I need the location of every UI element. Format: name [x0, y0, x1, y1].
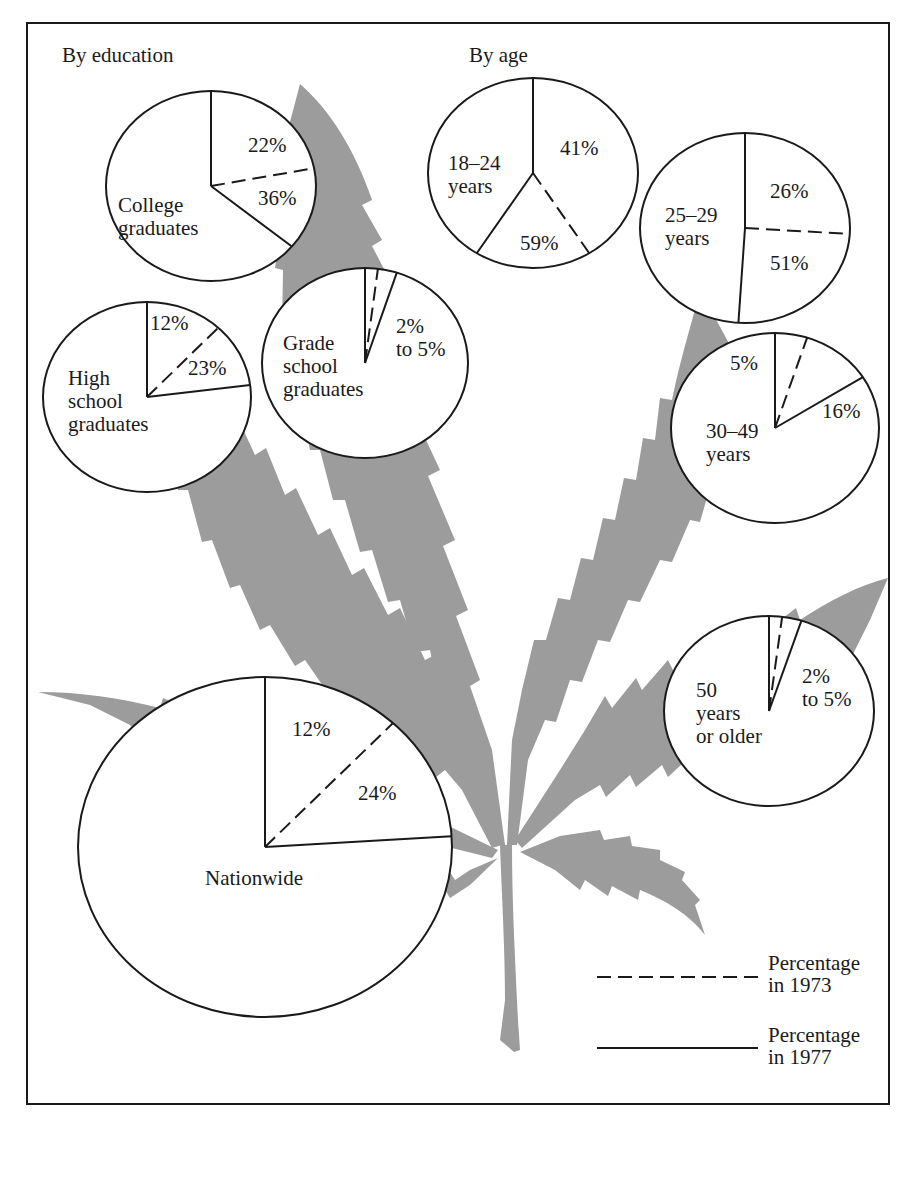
pie-value-label-1973: 5%	[730, 351, 758, 375]
pie-category-label: years	[448, 174, 492, 198]
leaf-stem	[500, 845, 520, 1052]
pie-category-label: school	[68, 389, 123, 413]
pie-value-label-1973: 12%	[292, 717, 331, 741]
pie-age-30-49: 30–49years5%16%	[671, 333, 879, 523]
marijuana-use-pie-chart: By education By age Collegegraduates22%3…	[0, 0, 913, 1188]
pie-category-label: or older	[696, 724, 762, 748]
pie-category-label: school	[283, 354, 338, 378]
pie-college: Collegegraduates22%36%	[106, 91, 316, 281]
pie-category-label: graduates	[118, 216, 198, 240]
legend-label-1973-line2: in 1973	[768, 973, 832, 997]
pie-range-label: 2%	[802, 664, 830, 688]
pie-age-50-plus: 50yearsor older2%to 5%	[664, 616, 874, 806]
pie-value-label-1977: 16%	[822, 399, 861, 423]
pie-category-label: graduates	[283, 377, 363, 401]
legend-label-1973-line1: Percentage	[768, 951, 860, 975]
pie-value-label-1977: 36%	[258, 186, 297, 210]
pie-age-25-29: 25–29years26%51%	[640, 133, 850, 323]
pie-category-label: 50	[696, 678, 717, 702]
pie-range-label: to 5%	[802, 687, 852, 711]
pie-value-label-1973: 22%	[248, 133, 287, 157]
pie-range-label: 2%	[396, 314, 424, 338]
pie-category-label: 25–29	[665, 203, 718, 227]
pie-category-label: years	[696, 701, 740, 725]
pie-category-label: 30–49	[706, 419, 759, 443]
pie-category-label: College	[118, 193, 183, 217]
heading-by-age: By age	[469, 43, 528, 67]
pie-category-label: years	[706, 442, 750, 466]
pie-value-label-1977: 24%	[358, 781, 397, 805]
pie-high-school: Highschoolgraduates12%23%	[43, 302, 251, 492]
heading-by-education: By education	[62, 43, 174, 67]
pie-value-label-1973: 26%	[770, 179, 809, 203]
pie-category-label: graduates	[68, 412, 148, 436]
pie-value-label-1977: 59%	[520, 231, 559, 255]
pie-category-label: High	[68, 366, 111, 390]
pie-nationwide: Nationwide12%24%	[78, 677, 452, 1017]
leaf-leaflet-lower-right	[520, 830, 705, 935]
legend-label-1977-line1: Percentage	[768, 1023, 860, 1047]
pie-value-label-1977: 23%	[188, 356, 227, 380]
pie-category-label: Nationwide	[205, 866, 303, 890]
legend-label-1977-line2: in 1977	[768, 1045, 832, 1069]
pie-range-label: to 5%	[396, 337, 446, 361]
pie-value-label-1973: 41%	[560, 136, 599, 160]
pie-grade-school: Gradeschoolgraduates2%to 5%	[262, 268, 468, 458]
pie-category-label: Grade	[283, 331, 334, 355]
legend: Percentage in 1973 Percentage in 1977	[597, 951, 860, 1069]
pie-value-label-1977: 51%	[770, 251, 809, 275]
pie-category-label: 18–24	[448, 151, 501, 175]
pie-age-18-24: 18–24years41%59%	[428, 78, 638, 268]
pie-value-label-1973: 12%	[150, 311, 189, 335]
pie-category-label: years	[665, 226, 709, 250]
